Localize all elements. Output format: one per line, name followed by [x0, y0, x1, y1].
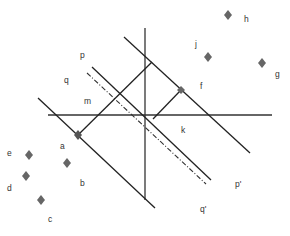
label-k: k	[181, 125, 186, 135]
line-q-dashed	[87, 73, 206, 184]
marker-e	[25, 150, 33, 160]
label-p: p	[80, 50, 85, 60]
marker-g	[258, 58, 266, 68]
label-c: c	[48, 214, 53, 224]
label-g: g	[275, 69, 280, 79]
label-q-prime: q'	[200, 204, 207, 214]
label-m: m	[84, 96, 91, 106]
label-f: f	[200, 81, 203, 91]
marker-h	[224, 10, 232, 20]
line-upper-right	[124, 37, 250, 153]
marker-a	[63, 158, 71, 168]
label-b: b	[80, 178, 85, 188]
diagram-canvas: p q m j h g f k a e b d c p' q'	[0, 0, 290, 236]
marker-d	[22, 171, 30, 181]
line-p	[92, 67, 211, 180]
label-d: d	[7, 183, 12, 193]
label-h: h	[244, 14, 249, 24]
label-j: j	[194, 39, 197, 49]
label-a: a	[60, 141, 65, 151]
label-p-prime: p'	[235, 179, 242, 189]
label-e: e	[7, 148, 12, 158]
label-q: q	[64, 75, 69, 85]
marker-c	[37, 195, 45, 205]
marker-j	[204, 52, 212, 62]
